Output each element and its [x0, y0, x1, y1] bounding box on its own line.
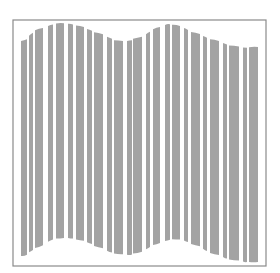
- stripe-bar: [146, 32, 150, 250]
- illustration-canvas: [0, 0, 280, 273]
- stripe-bar: [35, 28, 43, 248]
- stripe-bar: [21, 39, 27, 256]
- stripe-bar: [229, 46, 239, 261]
- stripe-bar: [172, 25, 180, 240]
- stripe-bar: [114, 40, 123, 254]
- stripe-bar: [133, 37, 142, 254]
- stripe-bar: [29, 33, 33, 253]
- stripe-bar: [165, 24, 170, 241]
- stripe-bar: [153, 27, 160, 245]
- stripe-bar: [68, 24, 73, 239]
- stripe-bar: [107, 37, 112, 253]
- stripe-group: [21, 23, 258, 262]
- stripe-bar: [191, 32, 200, 246]
- stripe-bar: [127, 40, 132, 255]
- stripe-bar: [56, 23, 64, 239]
- stripe-bar: [48, 25, 53, 242]
- stripe-bar: [87, 29, 92, 244]
- wavy-stripes-illustration: [0, 0, 280, 273]
- stripe-bar: [76, 26, 84, 241]
- stripe-bar: [94, 32, 103, 248]
- stripe-bar: [243, 48, 247, 263]
- stripe-bar: [249, 47, 258, 262]
- stripe-bar: [184, 28, 188, 242]
- stripe-bar: [223, 43, 227, 259]
- stripe-bar: [203, 36, 207, 251]
- stripe-bar: [210, 39, 219, 255]
